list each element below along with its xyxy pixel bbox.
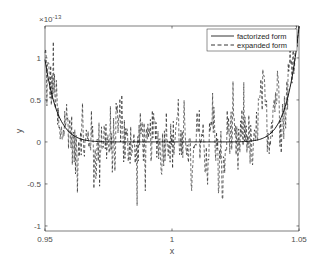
y-tick-label: -1 <box>34 222 42 231</box>
y-tick-label: 0 <box>37 138 42 147</box>
y-tick-label: 0.5 <box>30 96 42 105</box>
axes-background <box>45 26 299 231</box>
legend: factorized form expanded form <box>207 29 297 51</box>
x-axis-label: x <box>170 246 175 256</box>
plot-area <box>45 26 299 231</box>
x-tick-label: 1.05 <box>291 235 307 244</box>
y-tick-label: -0.5 <box>27 180 41 189</box>
legend-label-factorized: factorized form <box>237 32 287 41</box>
y-tick-label: 1 <box>37 54 42 63</box>
figure: 0.9511.05 -1-0.500.51 ×10-13 x y factori… <box>0 0 319 266</box>
y-axis-label: y <box>14 128 24 133</box>
x-tick-label: 0.95 <box>37 235 53 244</box>
legend-label-expanded: expanded form <box>237 41 287 50</box>
x-tick-label: 1 <box>170 235 175 244</box>
